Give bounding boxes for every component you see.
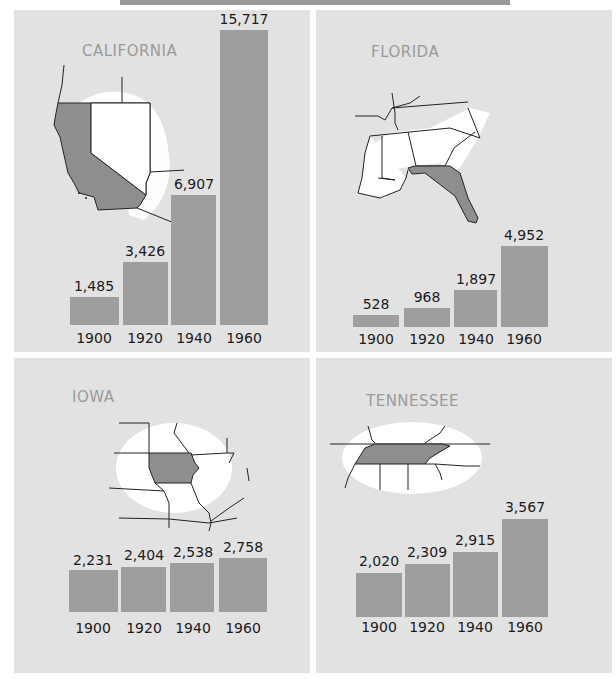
- bar-1900: [356, 573, 402, 617]
- year-label: 1960: [225, 620, 261, 636]
- value-label: 2,538: [173, 544, 213, 560]
- year-label: 1940: [175, 620, 211, 636]
- year-label: 1900: [76, 330, 112, 346]
- year-label: 1960: [506, 331, 542, 347]
- bar-1920: [123, 262, 168, 325]
- year-label: 1920: [126, 620, 162, 636]
- year-label: 1940: [176, 330, 212, 346]
- value-label: 15,717: [220, 11, 269, 27]
- bar-1940: [170, 563, 214, 612]
- value-label: 528: [363, 296, 390, 312]
- bar-1900: [69, 570, 118, 612]
- value-label: 2,915: [455, 532, 495, 548]
- value-label: 2,309: [407, 544, 447, 560]
- year-label: 1940: [458, 331, 494, 347]
- panel-florida: FLORIDA 528 968 1,897 4,952 1900 1920 19…: [316, 10, 612, 352]
- header-bar: [120, 0, 510, 5]
- year-label: 1960: [226, 330, 262, 346]
- panel-iowa: IOWA 2,231 2,404 2,538 2,758 1900 1920 1…: [14, 358, 310, 673]
- year-label: 1920: [409, 619, 445, 635]
- bar-1900: [70, 297, 119, 325]
- value-label: 2,758: [223, 539, 263, 555]
- bar-1960: [219, 558, 267, 612]
- florida-map-icon: [350, 78, 500, 228]
- bar-1920: [405, 564, 450, 617]
- iowa-map-icon: [109, 413, 254, 533]
- tennessee-map-icon: [330, 418, 500, 498]
- bar-1920: [404, 308, 450, 327]
- year-label: 1920: [127, 330, 163, 346]
- value-label: 3,567: [505, 499, 545, 515]
- year-label: 1900: [75, 620, 111, 636]
- bar-1960: [220, 30, 268, 325]
- value-label: 1,485: [74, 278, 114, 294]
- panel-california: CALIFORNIA 1,485 3,426 6,907 15,717 1900…: [14, 10, 310, 352]
- year-label: 1900: [358, 331, 394, 347]
- california-map-icon: [34, 65, 184, 230]
- value-label: 968: [414, 289, 441, 305]
- bar-1940: [171, 195, 216, 325]
- value-label: 3,426: [125, 243, 165, 259]
- value-label: 2,231: [73, 552, 113, 568]
- panel-title: FLORIDA: [371, 43, 439, 61]
- value-label: 4,952: [504, 227, 544, 243]
- bar-1940: [454, 290, 497, 327]
- value-label: 2,020: [359, 553, 399, 569]
- value-label: 2,404: [124, 547, 164, 563]
- year-label: 1900: [361, 619, 397, 635]
- year-label: 1940: [457, 619, 493, 635]
- year-label: 1920: [409, 331, 445, 347]
- panel-tennessee: TENNESSEE 2,020 2,309 2,915 3,567 1900 1…: [316, 358, 612, 673]
- bar-1940: [453, 552, 498, 617]
- panel-title: TENNESSEE: [366, 392, 459, 410]
- value-label: 1,897: [456, 271, 496, 287]
- bar-1960: [502, 519, 548, 617]
- year-label: 1960: [507, 619, 543, 635]
- panel-title: IOWA: [72, 388, 115, 406]
- bar-1960: [501, 246, 548, 327]
- value-label: 6,907: [174, 176, 214, 192]
- panel-title: CALIFORNIA: [82, 42, 177, 60]
- bar-1920: [121, 567, 166, 612]
- bar-1900: [353, 315, 399, 327]
